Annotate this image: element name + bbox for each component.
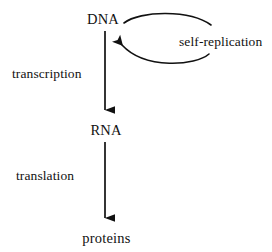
edge-label-self-replication: self-replication bbox=[177, 34, 264, 50]
node-label-rna: RNA bbox=[0, 123, 212, 138]
node-label-dna: DNA bbox=[0, 12, 206, 27]
edge-label-translation: translation bbox=[16, 169, 74, 183]
node-label-proteins: proteins bbox=[0, 231, 213, 246]
diagram-canvas: DNA RNA proteins transcription translati… bbox=[0, 0, 272, 252]
edge-label-transcription: transcription bbox=[12, 67, 82, 81]
